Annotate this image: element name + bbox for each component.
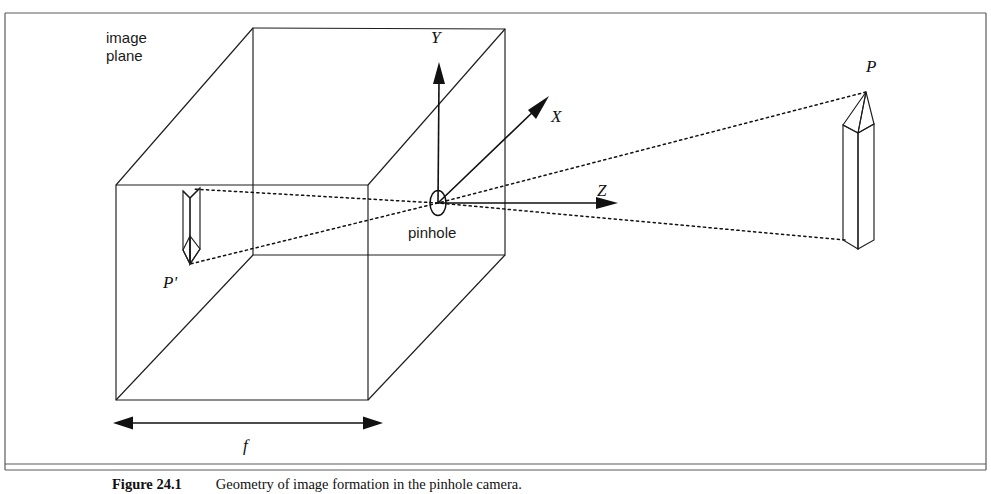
axis-y-arrowhead (433, 62, 445, 84)
pinhole-label: pinhole (408, 224, 456, 241)
image-pencil-tip-right (190, 236, 200, 264)
caption-text: Geometry of image formation in the pinho… (216, 476, 522, 492)
box-image-plane-face (116, 185, 368, 400)
object-point-label: P (865, 57, 876, 76)
figure-frame (5, 13, 986, 470)
image-plane-label-line1: image (106, 29, 147, 46)
box-back-face (253, 28, 505, 255)
image-pencil (183, 188, 200, 264)
box-edge-tr (368, 29, 505, 185)
axis-x-label: X (550, 107, 562, 126)
object-pencil (843, 92, 874, 249)
focal-dim-arrow-left (113, 417, 133, 430)
caption-number: Figure 24.1 (112, 476, 182, 492)
focal-dim-arrow-right (363, 417, 383, 430)
ray-tip-to-image (190, 92, 866, 264)
figure-page: image plane pinhole Y X Z P P' f Figure … (0, 0, 991, 494)
axis-z-label: Z (597, 181, 607, 200)
axis-y-line (438, 80, 439, 203)
light-rays (190, 92, 866, 264)
image-plane-label-line2: plane (106, 47, 143, 64)
figure-caption: Figure 24.1Geometry of image formation i… (0, 474, 991, 494)
pencil-body-right (858, 124, 874, 249)
pinhole-camera-diagram: image plane pinhole Y X Z P P' f (0, 0, 991, 494)
box-edge-br (368, 255, 505, 400)
image-pencil-tip-left (183, 236, 190, 264)
axis-x-line (438, 108, 537, 203)
ray-base-to-image (192, 189, 845, 240)
focal-length-label: f (243, 436, 250, 455)
box-edge-bl-hidden (116, 255, 253, 400)
image-pencil-right (190, 188, 200, 264)
focal-length-dimension (113, 417, 383, 430)
pencil-body-left (843, 125, 858, 249)
axis-y-label: Y (431, 28, 442, 47)
axis-x-arrowhead (528, 96, 549, 119)
camera-box (116, 28, 505, 400)
image-point-label: P' (162, 273, 177, 292)
coordinate-axes (433, 62, 618, 209)
pencil-tip-right (858, 92, 874, 133)
